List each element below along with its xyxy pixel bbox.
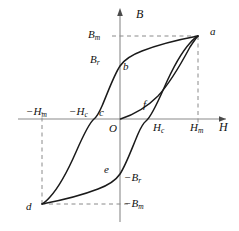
point-label-f: f <box>143 99 146 110</box>
label-h-coerc-neg-base: −H <box>69 105 84 117</box>
label-b-max-neg: −Bm <box>124 198 144 209</box>
axis-label-h: H <box>219 121 228 133</box>
label-h-coerc-base: H <box>153 121 161 133</box>
label-b-rem-neg: −Br <box>124 172 141 183</box>
label-h-coerc-sub: c <box>161 126 164 135</box>
v-axis-arrow-icon <box>117 8 123 16</box>
label-h-max: Hm <box>190 122 203 133</box>
label-h-max-base: H <box>190 121 198 133</box>
label-b-rem-neg-base: −B <box>124 171 138 183</box>
label-b-rem: Br <box>90 54 100 65</box>
label-h-coerc-neg-sub: c <box>84 110 87 119</box>
label-b-max-sub: m <box>95 33 100 42</box>
axis-label-b: B <box>136 8 143 20</box>
label-b-max-neg-base: −B <box>124 197 138 209</box>
point-label-e: e <box>104 164 109 175</box>
label-h-coerc: Hc <box>153 122 164 133</box>
point-label-b: b <box>123 61 129 72</box>
label-h-max-neg-base: −H <box>26 105 41 117</box>
origin-label: O <box>109 123 117 134</box>
label-b-max: Bm <box>88 29 100 40</box>
label-h-max-neg-sub: m <box>41 110 46 119</box>
point-label-c: c <box>99 107 104 118</box>
label-b-rem-base: B <box>90 53 97 65</box>
point-label-d: d <box>26 201 32 212</box>
point-label-a: a <box>210 26 216 37</box>
label-h-max-sub: m <box>198 126 203 135</box>
label-b-max-base: B <box>88 28 95 40</box>
hysteresis-loop-figure: B H O Bm Br −Br −Bm −Hm −Hc Hc Hm a b c … <box>0 0 239 231</box>
label-b-rem-neg-sub: r <box>138 176 141 185</box>
label-b-max-neg-sub: m <box>138 202 143 211</box>
label-h-coerc-neg: −Hc <box>69 106 88 117</box>
label-h-max-neg: −Hm <box>26 106 47 117</box>
label-b-rem-sub: r <box>97 58 100 67</box>
